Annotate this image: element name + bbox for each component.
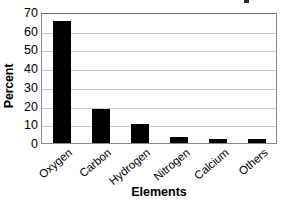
y-axis-tick-label: 30 <box>24 82 38 95</box>
cropped-title-artifact <box>244 0 249 3</box>
bar-slot <box>81 14 120 143</box>
y-axis-tick-label: 60 <box>24 25 38 38</box>
y-axis-tick-label: 40 <box>24 63 38 76</box>
x-axis-tick-label: Hydrogen <box>108 147 153 187</box>
bar[interactable] <box>131 124 149 143</box>
bar-slot <box>198 14 237 143</box>
bar-slot <box>120 14 159 143</box>
y-axis-tick-label: 20 <box>24 100 38 113</box>
x-axis-tick-label: Others <box>237 147 270 178</box>
x-axis-tick-label: Oxygen <box>37 147 74 181</box>
y-axis-tick-label: 50 <box>24 44 38 57</box>
bar-slot <box>237 14 276 143</box>
bar[interactable] <box>248 139 266 143</box>
x-axis-tick-label: Carbon <box>78 147 114 180</box>
bar-slot <box>42 14 81 143</box>
y-axis-tick-label: 70 <box>24 7 38 20</box>
bar[interactable] <box>92 109 110 143</box>
x-axis-title: Elements <box>41 185 277 199</box>
plot-area <box>41 13 277 144</box>
y-axis-tick-label: 10 <box>24 119 38 132</box>
bar-series <box>42 14 276 143</box>
bar-chart: Percent 706050403020100 OxygenCarbonHydr… <box>0 0 294 204</box>
bar[interactable] <box>53 21 71 143</box>
x-axis-tick-label: Calcium <box>193 147 232 182</box>
y-axis-title-text: Percent <box>2 64 16 108</box>
bar-slot <box>159 14 198 143</box>
bar[interactable] <box>209 139 227 143</box>
bar[interactable] <box>170 137 188 143</box>
y-axis-title: Percent <box>0 40 18 132</box>
x-axis-tick-label: Nitrogen <box>152 147 192 183</box>
x-axis-tick-labels: OxygenCarbonHydrogenNitrogenCalciumOther… <box>41 145 277 179</box>
y-axis-tick-label: 0 <box>31 138 38 151</box>
y-axis-tick-labels: 706050403020100 <box>18 13 40 144</box>
